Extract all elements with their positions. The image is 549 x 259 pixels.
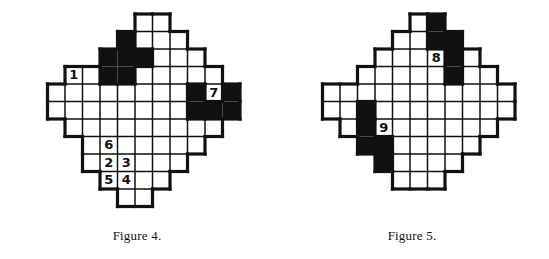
grid-cell (48, 102, 66, 120)
grid-cell (393, 67, 411, 85)
grid-cell (118, 32, 136, 50)
grid-cell (358, 67, 376, 85)
grid-cell (445, 49, 463, 67)
grid-cell (118, 84, 136, 102)
grid-cell (445, 32, 463, 50)
grid-cell (135, 84, 153, 102)
grid-cell (170, 154, 188, 172)
grid-cell (428, 84, 446, 102)
grid-cell (445, 137, 463, 155)
grid-cell (205, 102, 223, 120)
grid-cell (480, 84, 498, 102)
grid-cell (118, 102, 136, 120)
grid-cell (153, 154, 171, 172)
figure-5-grid-holder: 89 (275, 8, 549, 223)
grid-cell (118, 189, 136, 207)
grid-cell (223, 84, 241, 102)
grid-cell (410, 154, 428, 172)
grid-cell (410, 84, 428, 102)
grid-cell (223, 102, 241, 120)
grid-cell (410, 14, 428, 32)
figure-4-caption: Figure 4. (0, 228, 274, 244)
grid-cell (428, 137, 446, 155)
grid-cell (135, 154, 153, 172)
grid-cell (410, 32, 428, 50)
grid-cell (375, 67, 393, 85)
grid-cell (135, 119, 153, 137)
grid-cell (445, 67, 463, 85)
grid-cell (65, 102, 83, 120)
grid-cell (428, 14, 446, 32)
grid-cell (153, 67, 171, 85)
grid-cell (153, 119, 171, 137)
grid-cell (100, 119, 118, 137)
grid-cell (135, 67, 153, 85)
figure-4-diagram: 1762354 (0, 8, 274, 223)
figure-page: 1762354 Figure 4. 89 Figure 5. (0, 0, 549, 259)
grid-cell (135, 49, 153, 67)
figure-5-block: 89 Figure 5. (275, 0, 549, 259)
grid-cell (188, 119, 206, 137)
grid-cell (153, 84, 171, 102)
grid-cell (463, 119, 481, 137)
grid-cell (83, 119, 101, 137)
grid-cell (153, 172, 171, 190)
grid-cell (463, 49, 481, 67)
grid-cell (135, 102, 153, 120)
cell-number-4: 4 (122, 172, 131, 187)
grid-cell (375, 49, 393, 67)
grid-cell (463, 67, 481, 85)
grid-cell (375, 84, 393, 102)
grid-cell (393, 172, 411, 190)
grid-cell (480, 119, 498, 137)
grid-cell (428, 32, 446, 50)
grid-cell (340, 102, 358, 120)
grid-cell (428, 67, 446, 85)
grid-cell (340, 84, 358, 102)
grid-cell (83, 102, 101, 120)
grid-cell (135, 137, 153, 155)
grid-cell (135, 32, 153, 50)
grid-cell (65, 119, 83, 137)
cell-number-9: 9 (379, 120, 388, 135)
grid-cell (393, 154, 411, 172)
figure-5-diagram: 89 (275, 8, 549, 223)
grid-cell (358, 102, 376, 120)
grid-cell (463, 84, 481, 102)
grid-cell (428, 119, 446, 137)
grid-cell (118, 137, 136, 155)
cell-number-8: 8 (432, 50, 441, 65)
grid-cell (153, 49, 171, 67)
grid-cell (170, 137, 188, 155)
grid-cell (410, 172, 428, 190)
grid-cell (100, 49, 118, 67)
grid-cell (480, 102, 498, 120)
cell-number-6: 6 (104, 137, 113, 152)
grid-cell (428, 102, 446, 120)
grid-cell (153, 32, 171, 50)
grid-cell (205, 67, 223, 85)
figure-5-caption: Figure 5. (275, 228, 549, 244)
grid-cell (83, 67, 101, 85)
grid-cell (170, 32, 188, 50)
grid-cell (153, 14, 171, 32)
grid-cell (100, 84, 118, 102)
figure-4-block: 1762354 Figure 4. (0, 0, 274, 259)
grid-cell (135, 14, 153, 32)
grid-cell (375, 154, 393, 172)
grid-cell (358, 84, 376, 102)
grid-cell (153, 137, 171, 155)
cell-number-5: 5 (104, 172, 113, 187)
grid-cell (410, 67, 428, 85)
grid-cell (83, 137, 101, 155)
cell-number-1: 1 (69, 67, 78, 82)
grid-cell (323, 84, 341, 102)
grid-cell (393, 137, 411, 155)
grid-cell (205, 119, 223, 137)
grid-cell (410, 119, 428, 137)
grid-cell (498, 102, 516, 120)
grid-cell (83, 154, 101, 172)
grid-cell (100, 102, 118, 120)
grid-cell (118, 49, 136, 67)
grid-cell (118, 119, 136, 137)
